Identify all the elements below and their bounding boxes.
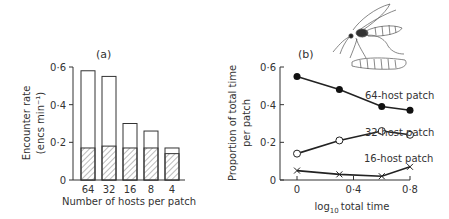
y-tick-label: 0·6 xyxy=(50,62,66,73)
x-tick-label: 0 xyxy=(294,184,300,195)
panel-a: (a) 00·20·40·6 Encounter rate (encs min⁻… xyxy=(21,48,196,207)
y-axis-title-b: Proportion of total time xyxy=(227,65,238,181)
x-tick-label: 4 xyxy=(169,184,175,195)
x-axis-title-b: log10total time xyxy=(315,201,390,215)
bar-32 xyxy=(102,76,116,180)
x-tick-label: 32 xyxy=(103,184,116,195)
bar-16 xyxy=(123,124,137,181)
bar-4 xyxy=(165,148,179,180)
x-tick-label: 16 xyxy=(124,184,137,195)
wasp-larva-illustration-icon xyxy=(333,4,406,69)
bar-64 xyxy=(81,71,95,180)
x-tick-label: 64 xyxy=(82,184,95,195)
data-point xyxy=(294,150,301,157)
label-32-host: 32-host patch xyxy=(365,127,434,138)
bar-8 xyxy=(144,131,158,180)
x-ticks-a: 64321684 xyxy=(82,184,176,195)
y-tick-label: 0 xyxy=(270,175,276,186)
data-point xyxy=(336,137,343,144)
x-tick-label: 0·8 xyxy=(402,184,418,195)
y-tick-label: 0·2 xyxy=(260,137,276,148)
y-tick-label: 0 xyxy=(60,175,66,186)
data-point xyxy=(407,107,414,114)
bars-a xyxy=(81,71,179,180)
x-tick-label: 0·4 xyxy=(346,184,362,195)
panel-a-label: (a) xyxy=(96,48,111,61)
data-point xyxy=(378,103,385,110)
panel-b-label: (b) xyxy=(298,48,314,61)
label-64-host: 64-host patch xyxy=(365,90,434,101)
y-axis-title-a: Encounter rate xyxy=(21,86,32,161)
figure: (a) 00·20·40·6 Encounter rate (encs min⁻… xyxy=(0,0,449,219)
y-axis-subtitle-b: per patch xyxy=(241,99,252,147)
y-tick-label: 0·4 xyxy=(260,100,276,111)
data-point xyxy=(336,86,343,93)
x-tick-label: 8 xyxy=(148,184,154,195)
x-axis-title-a: Number of hosts per patch xyxy=(62,196,196,207)
y-tick-label: 0·6 xyxy=(260,62,276,73)
y-tick-label: 0·2 xyxy=(50,137,66,148)
y-axis-subtitle-a: (encs min⁻¹) xyxy=(35,92,46,154)
y-tick-label: 0·4 xyxy=(50,100,66,111)
data-point xyxy=(294,73,301,80)
label-16-host: 16-host patch xyxy=(364,153,433,164)
panel-b: (b) 00·20·40·6 00·40·8 Proportion of tot… xyxy=(227,48,434,215)
